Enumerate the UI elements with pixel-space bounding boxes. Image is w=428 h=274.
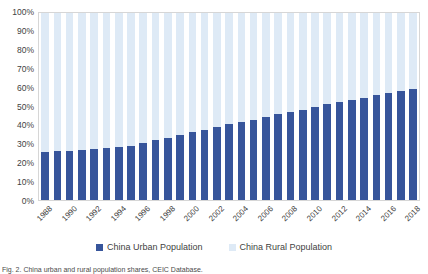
bar-segment-urban bbox=[299, 110, 307, 200]
bar-segment-urban bbox=[336, 102, 344, 200]
bar-segment-rural bbox=[115, 13, 123, 147]
bar-column[interactable] bbox=[297, 13, 309, 200]
bar-segment-urban bbox=[250, 120, 258, 200]
x-axis-tick: 2018 bbox=[407, 202, 419, 246]
y-axis-tick-label: 100% bbox=[0, 8, 34, 17]
bar-column[interactable] bbox=[100, 13, 112, 200]
bar-segment-rural bbox=[348, 13, 356, 100]
y-axis: 100%90%80%70%60%50%40%30%20%10%0% bbox=[0, 12, 34, 201]
bar-column[interactable] bbox=[382, 13, 394, 200]
bar-column[interactable] bbox=[113, 13, 125, 200]
chart-legend: China Urban PopulationChina Rural Popula… bbox=[0, 242, 428, 252]
bar-column[interactable] bbox=[162, 13, 174, 200]
bar-column[interactable] bbox=[76, 13, 88, 200]
x-axis-tick bbox=[248, 202, 260, 246]
bar-column[interactable] bbox=[395, 13, 407, 200]
x-axis-tick: 2000 bbox=[186, 202, 198, 246]
x-axis-tick: 1994 bbox=[113, 202, 125, 246]
bar-column[interactable] bbox=[333, 13, 345, 200]
bar-column[interactable] bbox=[370, 13, 382, 200]
x-axis-tick bbox=[321, 202, 333, 246]
bar-segment-rural bbox=[164, 13, 172, 138]
bar-segment-urban bbox=[311, 107, 319, 200]
bar-segment-rural bbox=[225, 13, 233, 124]
bar-segment-rural bbox=[78, 13, 86, 150]
bar-segment-urban bbox=[385, 93, 393, 200]
bar-column[interactable] bbox=[358, 13, 370, 200]
bar-segment-urban bbox=[103, 148, 111, 200]
bar-segment-rural bbox=[127, 13, 135, 146]
x-axis-tick: 2014 bbox=[358, 202, 370, 246]
legend-item[interactable]: China Rural Population bbox=[229, 242, 333, 252]
figure-container: 100%90%80%70%60%50%40%30%20%10%0% 198819… bbox=[0, 0, 428, 274]
bar-column[interactable] bbox=[235, 13, 247, 200]
bar-column[interactable] bbox=[284, 13, 296, 200]
bar-segment-rural bbox=[287, 13, 295, 112]
bar-segment-urban bbox=[213, 127, 221, 200]
bar-stack bbox=[213, 13, 221, 200]
x-axis-tick bbox=[149, 202, 161, 246]
bar-stack bbox=[152, 13, 160, 200]
bar-stack bbox=[66, 13, 74, 200]
x-axis-tick-label: 2018 bbox=[403, 204, 422, 223]
bar-column[interactable] bbox=[321, 13, 333, 200]
bar-column[interactable] bbox=[51, 13, 63, 200]
x-axis-tick bbox=[395, 202, 407, 246]
bar-segment-rural bbox=[189, 13, 197, 132]
x-axis-tick: 1996 bbox=[137, 202, 149, 246]
bar-stack bbox=[299, 13, 307, 200]
bar-segment-urban bbox=[262, 117, 270, 200]
bar-column[interactable] bbox=[149, 13, 161, 200]
x-axis-tick: 2002 bbox=[211, 202, 223, 246]
legend-item[interactable]: China Urban Population bbox=[96, 242, 203, 252]
bar-segment-urban bbox=[189, 132, 197, 200]
bar-segment-rural bbox=[238, 13, 246, 122]
bar-column[interactable] bbox=[174, 13, 186, 200]
bar-segment-urban bbox=[225, 124, 233, 200]
bar-column[interactable] bbox=[137, 13, 149, 200]
y-axis-tick-label: 40% bbox=[0, 121, 34, 130]
bar-stack bbox=[348, 13, 356, 200]
y-axis-tick-label: 90% bbox=[0, 26, 34, 35]
chart-plot-area: 100%90%80%70%60%50%40%30%20%10%0% 198819… bbox=[0, 0, 428, 216]
bar-stack bbox=[311, 13, 319, 200]
bar-segment-urban bbox=[348, 100, 356, 200]
legend-label: China Rural Population bbox=[240, 242, 333, 252]
x-axis-tick bbox=[100, 202, 112, 246]
bar-column[interactable] bbox=[186, 13, 198, 200]
bar-segment-urban bbox=[373, 95, 381, 200]
x-axis-tick bbox=[51, 202, 63, 246]
bar-column[interactable] bbox=[407, 13, 419, 200]
bar-series-group bbox=[39, 13, 419, 200]
bar-segment-urban bbox=[201, 130, 209, 200]
bar-column[interactable] bbox=[39, 13, 51, 200]
bar-segment-rural bbox=[201, 13, 209, 130]
bar-column[interactable] bbox=[64, 13, 76, 200]
bar-column[interactable] bbox=[223, 13, 235, 200]
bar-segment-rural bbox=[360, 13, 368, 98]
bar-segment-urban bbox=[54, 151, 62, 200]
bar-segment-urban bbox=[127, 146, 135, 200]
bar-column[interactable] bbox=[198, 13, 210, 200]
bar-column[interactable] bbox=[309, 13, 321, 200]
bar-stack bbox=[274, 13, 282, 200]
x-axis-tick bbox=[346, 202, 358, 246]
bar-column[interactable] bbox=[260, 13, 272, 200]
bar-segment-urban bbox=[41, 152, 49, 200]
x-axis-tick bbox=[272, 202, 284, 246]
bar-stack bbox=[164, 13, 172, 200]
bar-column[interactable] bbox=[125, 13, 137, 200]
bar-segment-rural bbox=[139, 13, 147, 143]
bar-column[interactable] bbox=[272, 13, 284, 200]
bar-column[interactable] bbox=[346, 13, 358, 200]
bar-segment-rural bbox=[41, 13, 49, 152]
x-axis-tick: 2004 bbox=[235, 202, 247, 246]
x-axis-tick bbox=[370, 202, 382, 246]
bar-column[interactable] bbox=[248, 13, 260, 200]
bar-stack bbox=[139, 13, 147, 200]
bar-stack bbox=[238, 13, 246, 200]
bar-column[interactable] bbox=[88, 13, 100, 200]
bar-column[interactable] bbox=[211, 13, 223, 200]
bar-stack bbox=[360, 13, 368, 200]
bar-segment-rural bbox=[54, 13, 62, 151]
